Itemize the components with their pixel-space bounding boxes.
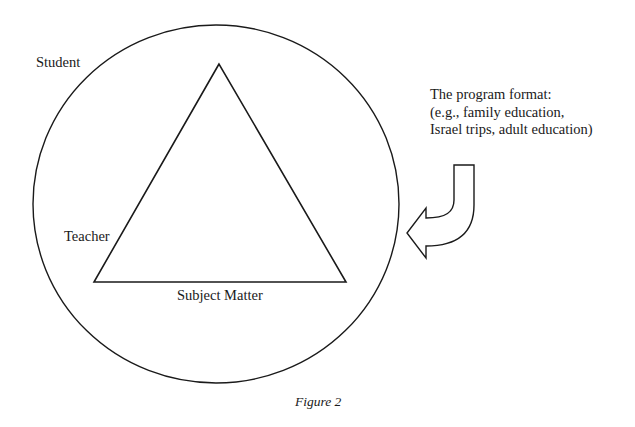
inner-triangle [94,64,346,282]
label-teacher: Teacher [64,227,110,246]
outer-circle [33,25,399,383]
program-format-line-2: (e.g., family education, [430,104,593,121]
label-student: Student [36,53,80,72]
label-subject-matter: Subject Matter [177,286,263,305]
program-format-line-1: The program format: [430,85,593,104]
figure-caption: Figure 2 [295,392,341,411]
program-format-note: The program format: (e.g., family educat… [430,85,593,138]
diagram-canvas [0,0,635,427]
curved-arrow-icon [407,165,474,258]
program-format-line-3: Israel trips, adult education) [430,121,593,138]
